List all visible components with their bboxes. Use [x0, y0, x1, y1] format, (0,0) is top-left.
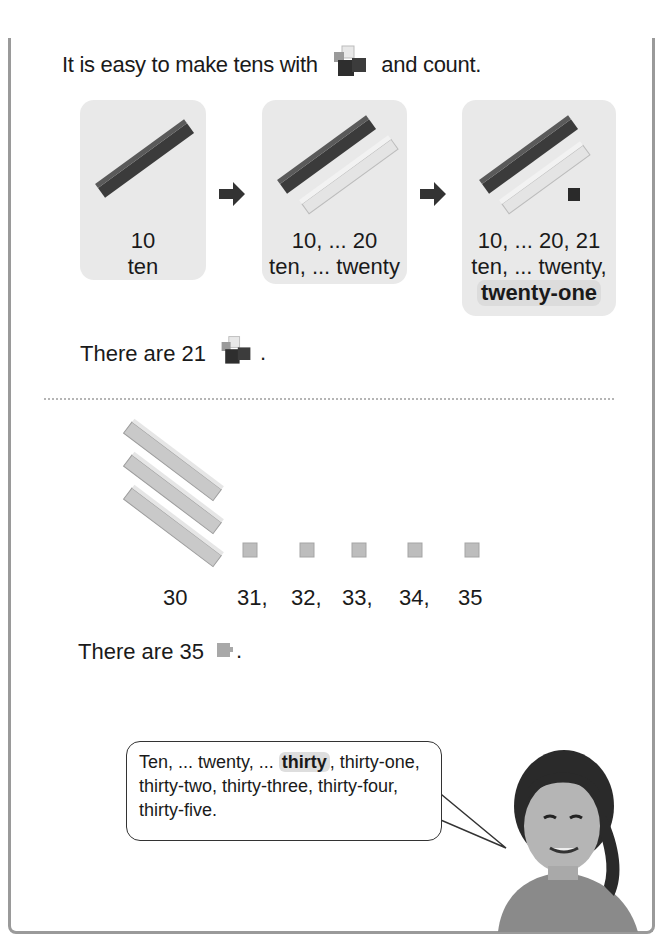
speech-bubble: Ten, ... twenty, ... thirty, thirty-one,… [126, 741, 442, 841]
girl-photo [478, 736, 648, 932]
speech-highlight: thirty [279, 752, 330, 772]
speech-text-1: Ten, ... twenty, ... [139, 752, 274, 772]
